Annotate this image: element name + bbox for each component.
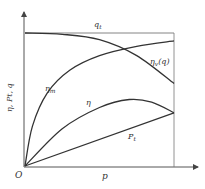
pump-characteristic-diagram: qtηv(q)ηmηPt O p η, Pt, q: [0, 0, 205, 189]
curve-label-2: ηm: [45, 84, 56, 94]
curve-Pt-4: [25, 113, 174, 166]
curve-label-1: ηv(q): [150, 57, 170, 67]
curve-label-3: η: [86, 98, 91, 107]
curve--3: [25, 99, 174, 166]
curve-label-4: Pt: [127, 132, 136, 142]
x-axis-label: p: [102, 171, 108, 181]
y-axis-label: η, Pt, q: [5, 83, 14, 112]
curve-label-0: qt: [94, 20, 102, 30]
origin-label: O: [15, 170, 23, 180]
